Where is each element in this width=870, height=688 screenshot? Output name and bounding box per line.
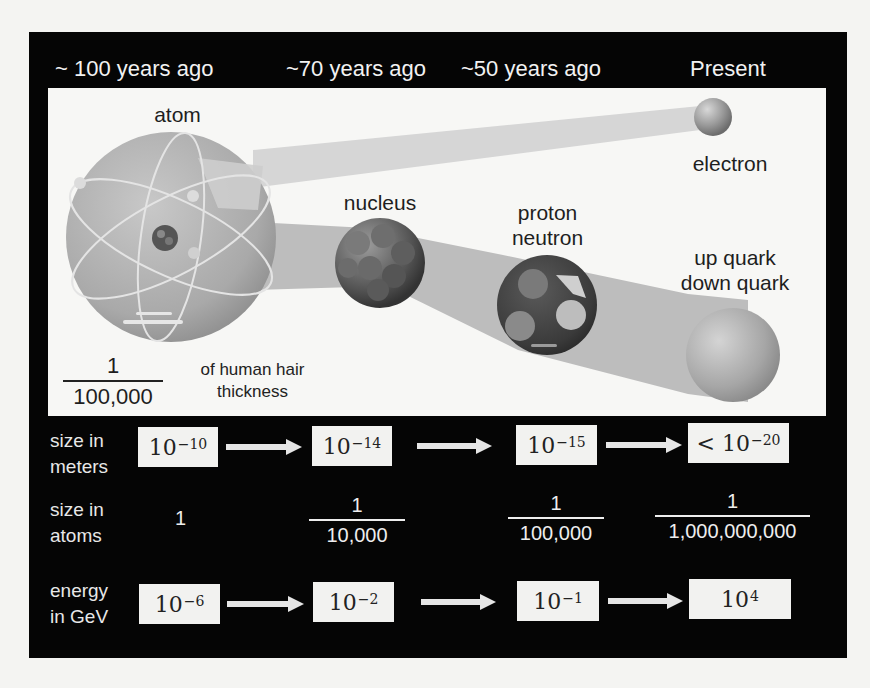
electron-cone	[253, 106, 700, 188]
electron-label: electron	[675, 151, 785, 176]
quark-icon	[686, 308, 780, 402]
atoms-value-nucleus: 1 10,000	[309, 493, 405, 547]
atoms-value-nucleon: 1 100,000	[508, 491, 604, 545]
meters-value-nucleus: 10−14	[312, 426, 392, 466]
nucleus-icon	[335, 218, 425, 308]
meters-value-nucleon: 10−15	[516, 425, 597, 465]
arrow-right-icon	[226, 439, 302, 455]
energy-value-nucleon: 10−1	[517, 581, 599, 621]
energy-value-quark: 104	[689, 579, 791, 619]
hair-fraction: 1 100,000	[63, 353, 163, 409]
atoms-value-quark: 1 1,000,000,000	[655, 489, 810, 543]
nucleon-icon	[497, 255, 597, 355]
fraction-bar	[655, 515, 810, 517]
fraction-bar	[309, 519, 405, 521]
hair-note: of human hair thickness	[185, 359, 320, 403]
row-label-meters: size in meters	[50, 428, 108, 480]
meters-value-atom: 10−10	[138, 427, 218, 467]
arrow-right-icon	[421, 594, 496, 610]
era-50-years: ~50 years ago	[461, 56, 601, 82]
row-label-atoms: size in atoms	[50, 497, 104, 549]
atoms-value-atom: 1	[175, 507, 186, 530]
arrow-right-icon	[417, 438, 492, 454]
atom-icon	[55, 129, 287, 345]
up-quark-label: up quark	[665, 245, 805, 270]
quark-label: up quark down quark	[665, 245, 805, 295]
nucleon-label: proton neutron	[495, 200, 600, 250]
era-70-years: ~70 years ago	[286, 56, 426, 82]
electron-icon	[694, 98, 732, 136]
fraction-bar	[508, 517, 604, 519]
down-quark-label: down quark	[665, 270, 805, 295]
era-present: Present	[690, 56, 766, 82]
atom-label: atom	[140, 102, 215, 127]
arrow-right-icon	[608, 593, 683, 609]
row-label-energy: energy in GeV	[50, 578, 108, 630]
energy-value-nucleus: 10−2	[313, 582, 394, 622]
meters-value-quark: < 10−20	[688, 423, 789, 463]
energy-value-atom: 10−6	[139, 584, 220, 624]
neutron-label: neutron	[495, 225, 600, 250]
arrow-right-icon	[227, 596, 304, 612]
fraction-bar	[63, 380, 163, 382]
arrow-right-icon	[606, 437, 682, 453]
proton-label: proton	[495, 200, 600, 225]
nucleus-label: nucleus	[330, 190, 430, 215]
era-100-years: ~ 100 years ago	[55, 56, 213, 82]
